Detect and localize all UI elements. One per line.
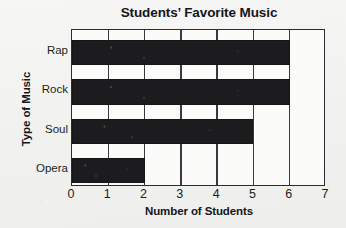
- category-label: Opera: [6, 162, 68, 174]
- x-tick-label: 3: [176, 187, 183, 201]
- x-tick-label: 4: [213, 187, 220, 201]
- x-tick-label: 7: [322, 187, 329, 201]
- x-tick-label: 5: [249, 187, 256, 201]
- x-tick-label: 0: [68, 187, 75, 201]
- category-label: Rock: [6, 83, 68, 95]
- category-label: Rap: [6, 44, 68, 56]
- x-axis-tick-labels: 01234567: [71, 187, 325, 205]
- y-axis-category-labels: RapRockSoulOpera: [2, 29, 68, 186]
- bar: [72, 79, 290, 104]
- x-tick-label: 1: [104, 187, 111, 201]
- plot-area: [71, 29, 325, 186]
- chart-title: Students’ Favorite Music: [68, 5, 330, 20]
- bar: [72, 158, 145, 183]
- category-label: Soul: [6, 123, 68, 135]
- bar: [72, 119, 253, 144]
- x-tick-label: 2: [140, 187, 147, 201]
- bar: [72, 40, 290, 65]
- x-axis-title: Number of Students: [68, 205, 330, 217]
- x-tick-label: 6: [285, 187, 292, 201]
